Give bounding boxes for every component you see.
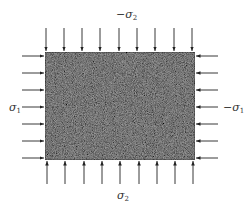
label-left-sigma1: σ1 [9,102,21,115]
label-right-sigma1: −σ1 [223,102,244,115]
label-bottom-sigma2: σ2 [117,190,129,203]
plate-specimen [45,52,195,160]
biaxial-stress-diagram [0,0,248,212]
label-top-sigma2: −σ2 [116,9,137,22]
